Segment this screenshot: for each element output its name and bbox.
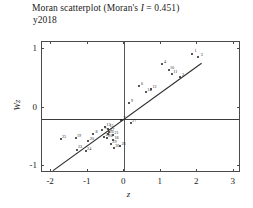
y-axis-title: Wz [12,100,22,111]
x-axis-tick-label: 3 [230,176,235,186]
data-point [103,136,105,138]
regression-line [42,42,239,171]
data-point [179,76,181,78]
x-axis-tick [233,169,234,172]
y-axis-tick-label: 0 [25,102,37,112]
data-point [112,134,114,136]
data-point-label: 26 [108,132,112,137]
x-axis-tick-top [160,41,161,44]
data-point [85,150,87,152]
x-axis-tick [160,169,161,172]
data-point-label: 11 [173,68,177,73]
data-point [128,102,130,104]
data-point [138,85,140,87]
x-axis-tick-label: 1 [157,176,162,186]
data-point-label: 6 [141,81,143,86]
x-axis-title: z [127,189,131,199]
data-point [60,138,62,140]
data-point [161,63,163,65]
y-axis-tick-label: -1 [25,160,37,170]
x-axis-tick [50,169,51,172]
x-axis-tick-label: -2 [46,176,54,186]
y-axis-tick-right [237,48,240,49]
data-point-label: 24 [87,146,91,151]
data-point-label: 14 [147,87,151,92]
data-point [119,145,121,147]
data-point [171,73,173,75]
data-point-label: 1 [194,48,196,53]
x-axis-tick-top [87,41,88,44]
plot-frame: 1234567891011121314151617181920212223242… [41,41,240,172]
data-point [197,56,199,58]
data-point-label: 2 [182,71,184,76]
y-axis-tick [41,48,44,49]
x-axis-tick [196,169,197,172]
data-point [113,147,115,149]
x-axis-tick-top [196,41,197,44]
chart-title-prefix: Moran scatterplot (Moran's [32,3,141,13]
data-point-label: 3 [201,52,203,57]
data-point [104,126,106,128]
data-point-label: 19 [77,132,81,137]
data-point-label: 25 [62,133,66,138]
x-axis-tick [87,169,88,172]
y-axis-tick-right [237,165,240,166]
data-point [168,69,170,71]
chart-subtitle: y2018 [33,15,57,25]
data-point-label: 4 [164,59,166,64]
chart-title-suffix: = 0.451) [144,3,180,13]
data-point-label: 20 [90,136,94,141]
x-axis-tick-top [50,41,51,44]
data-point-label: 28 [121,140,125,145]
x-axis-tick-label: -1 [83,176,91,186]
x-axis-tick [123,169,124,172]
moran-scatterplot-figure: Moran scatterplot (Moran's I = 0.451) y2… [0,0,253,208]
y-axis-tick-label: 1 [25,43,37,53]
y-axis-tick [41,165,44,166]
x-axis-tick-top [123,41,124,44]
x-axis-tick-label: 0 [121,176,126,186]
x-axis-tick-top [233,41,234,44]
data-point [191,53,193,55]
data-point-label: 7 [123,114,125,119]
data-point-label: 30 [115,143,119,148]
data-point-label: 8 [95,129,97,134]
chart-title: Moran scatterplot (Moran's I = 0.451) [32,3,179,13]
data-point-label: 23 [78,144,82,149]
data-point [75,137,77,139]
data-point [101,129,103,131]
x-axis-tick-label: 2 [194,176,199,186]
data-point-label: 12 [152,84,156,89]
data-point [120,119,122,121]
plot-canvas: 1234567891011121314151617181920212223242… [42,42,239,171]
data-point-label: 21 [115,129,119,134]
y-axis-tick-right [237,107,240,108]
data-point [106,137,108,139]
data-point [130,122,132,124]
data-point [110,143,112,145]
y-axis-tick [41,107,44,108]
data-point-label: 27 [132,117,136,122]
data-point-label: 9 [131,97,133,102]
